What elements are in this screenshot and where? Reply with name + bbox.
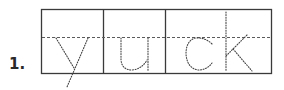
tracing-box [42, 10, 272, 74]
tracing-worksheet [0, 0, 284, 90]
traced-letter-y [56, 38, 88, 87]
traced-letter-k [226, 12, 252, 71]
traced-letter-u [121, 38, 148, 71]
traced-letter-c [186, 38, 212, 70]
